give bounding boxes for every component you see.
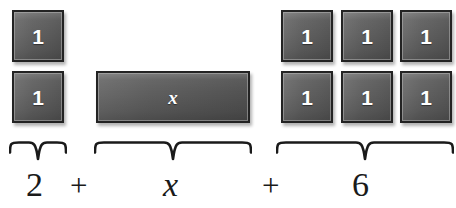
x-tile-label: x [168,88,178,107]
unit-tile-label: 1 [361,26,373,47]
unit-tile-right-3[interactable]: 1 [400,10,452,62]
unit-tile-label: 1 [32,87,44,108]
algebra-tiles-diagram: 11x111111 2+x+6 [0,0,456,208]
term-x: x [163,168,178,202]
unit-tile-label: 1 [301,87,313,108]
x-bar-tile[interactable]: x [96,71,250,123]
unit-tile-label: 1 [420,26,432,47]
unit-tile-label: 1 [420,87,432,108]
brace-variable [94,140,252,162]
underbrace-icon [9,140,67,162]
unit-tile-label: 1 [301,26,313,47]
unit-tile-right-2[interactable]: 1 [341,10,393,62]
operator-plus-1: + [70,170,87,201]
brace-constant-right [276,140,454,162]
underbrace-icon [94,140,252,162]
operator-plus-2: + [262,170,279,201]
unit-tile-right-5[interactable]: 1 [341,71,393,123]
unit-tile-left-1[interactable]: 1 [12,10,64,62]
unit-tile-label: 1 [361,87,373,108]
unit-tile-right-1[interactable]: 1 [281,10,333,62]
term-six: 6 [352,168,369,202]
unit-tile-left-2[interactable]: 1 [12,71,64,123]
unit-tile-right-6[interactable]: 1 [400,71,452,123]
unit-tile-label: 1 [32,26,44,47]
unit-tile-right-4[interactable]: 1 [281,71,333,123]
brace-constant-left [9,140,67,162]
term-two: 2 [26,168,43,202]
underbrace-icon [276,140,454,162]
